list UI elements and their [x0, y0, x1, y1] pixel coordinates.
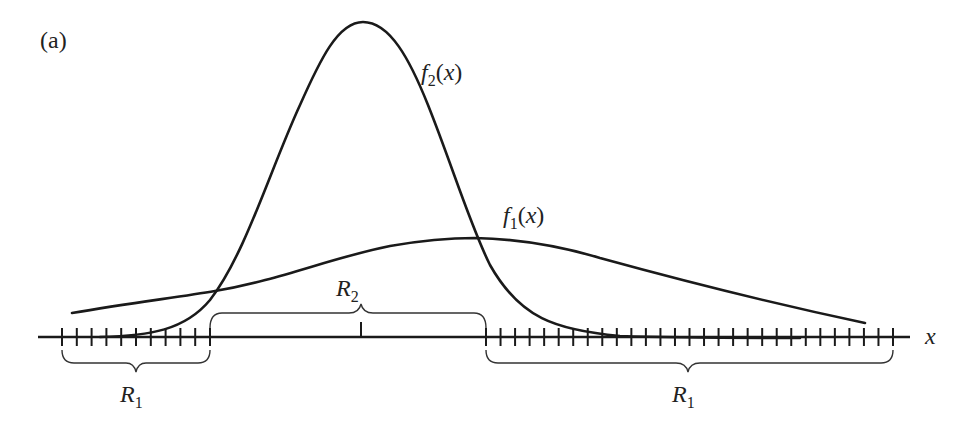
r1-right-label: R1: [671, 381, 695, 411]
f2-label: f2(x): [421, 59, 462, 89]
r2-label: R2: [335, 275, 359, 305]
classification-regions-figure: (a) x f2(x) f1(x) R2 R1: [0, 0, 975, 437]
r1-left-brace: [62, 350, 210, 372]
f2-arg: (x): [436, 59, 463, 85]
r1-right-brace: [486, 350, 893, 372]
figure-canvas: (a) x f2(x) f1(x) R2 R1: [0, 0, 975, 437]
f1-arg: (x): [518, 202, 545, 228]
f1-curve: [72, 238, 865, 323]
r2-brace: [210, 304, 486, 328]
f1-label: f1(x): [503, 202, 544, 232]
panel-label: (a): [40, 27, 67, 53]
x-axis-label: x: [924, 323, 936, 349]
r1-left-label: R1: [119, 381, 143, 411]
